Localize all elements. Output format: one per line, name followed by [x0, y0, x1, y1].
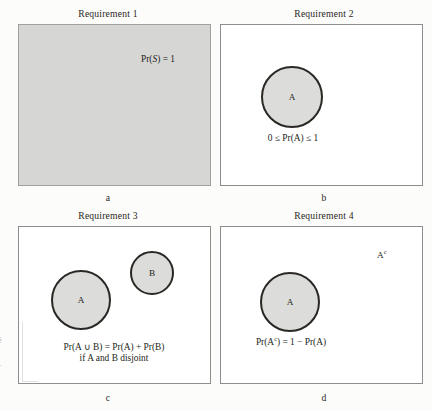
panel-c-circle-a-label: A	[51, 295, 111, 305]
panel-b-formula-bounds: 0 ≤ Pr(A) ≤ 1	[246, 133, 340, 145]
panel-d: Requirement 4 A Ac Pr(Ac) = 1 − Pr(A) d	[216, 208, 432, 408]
panel-a-sample-space-rect	[18, 24, 211, 186]
panel-b: Requirement 2 A 0 ≤ Pr(A) ≤ 1 b	[216, 4, 432, 205]
panel-d-formula-complement: Pr(Ac) = 1 − Pr(A)	[236, 337, 346, 349]
panel-a-title: Requirement 1	[0, 8, 216, 19]
panel-c-circle-b-label: B	[130, 268, 174, 278]
panel-d-sample-space-rect	[220, 226, 423, 384]
panel-c-formula-disjoint-condition: if A and B disjoint	[28, 353, 200, 365]
panel-c-formula-additivity: Pr(A ∪ B) = Pr(A) + Pr(B)	[28, 342, 200, 354]
clipped-caption-line-3: r	[0, 360, 9, 373]
panel-b-label: b	[216, 192, 432, 203]
panel-b-title: Requirement 2	[216, 8, 432, 19]
panel-c-label: c	[0, 392, 216, 403]
margin-rule-vertical	[22, 322, 23, 382]
panel-d-label: d	[216, 392, 432, 403]
panel-d-complement-superscript: c	[384, 248, 387, 255]
panel-c-title: Requirement 3	[0, 210, 216, 221]
clipped-caption-line-2: ·	[0, 347, 9, 360]
clipped-caption-line-4: l	[0, 373, 9, 386]
panel-d-complement-base: A	[377, 250, 384, 260]
panel-a: Requirement 1 Pr(S) = 1 a	[0, 4, 216, 205]
panel-d-title: Requirement 4	[216, 210, 432, 221]
panel-c: Requirement 3 A B Pr(A ∪ B) = Pr(A) + Pr…	[0, 208, 216, 408]
panel-a-label: a	[0, 192, 216, 203]
panel-b-circle-a-label: A	[261, 92, 323, 102]
clipped-caption-fragments: é · r l	[0, 334, 9, 396]
margin-rule-foot	[22, 381, 38, 382]
clipped-caption-line-1: é	[0, 334, 9, 347]
figure-canvas: Requirement 1 Pr(S) = 1 a Requirement 2 …	[0, 0, 432, 411]
panel-d-complement-label: Ac	[377, 250, 386, 260]
panel-a-formula-pr-s: Pr(S) = 1	[118, 54, 198, 66]
panel-d-circle-a-label: A	[260, 297, 320, 307]
